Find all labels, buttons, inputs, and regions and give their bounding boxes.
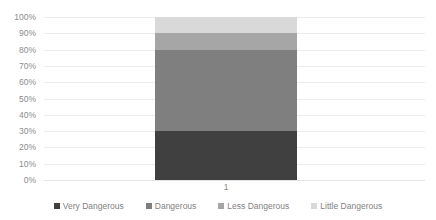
bar-segment-little-dangerous[interactable]	[155, 17, 297, 33]
legend-item[interactable]: Dangerous	[146, 202, 197, 211]
legend-label: Little Dangerous	[320, 202, 382, 211]
legend-item[interactable]: Less Dangerous	[218, 202, 289, 211]
y-axis-tick-label: 40%	[0, 111, 36, 120]
y-axis-tick-label: 10%	[0, 159, 36, 168]
y-axis-tick-label: 90%	[0, 29, 36, 38]
legend-label: Less Dangerous	[227, 202, 289, 211]
chart-legend: Very DangerousDangerousLess DangerousLit…	[0, 199, 436, 213]
legend-item[interactable]: Very Dangerous	[54, 202, 124, 211]
y-axis-tick-label: 60%	[0, 78, 36, 87]
legend-item[interactable]: Little Dangerous	[311, 202, 382, 211]
y-axis-tick-label: 100%	[0, 13, 36, 22]
y-axis-tick-label: 30%	[0, 127, 36, 136]
plot-area	[44, 17, 425, 180]
bar-segment-dangerous[interactable]	[155, 50, 297, 132]
legend-swatch-icon	[54, 203, 60, 209]
y-axis-tick-label: 80%	[0, 45, 36, 54]
x-axis: 1	[44, 181, 425, 197]
y-axis-tick-label: 0%	[0, 176, 36, 185]
bar-segment-less-dangerous[interactable]	[155, 33, 297, 49]
legend-label: Very Dangerous	[63, 202, 124, 211]
legend-swatch-icon	[311, 203, 317, 209]
y-axis-tick-label: 70%	[0, 62, 36, 71]
y-axis-tick-label: 50%	[0, 94, 36, 103]
bar-segment-very-dangerous[interactable]	[155, 131, 297, 180]
x-axis-tick-label: 1	[224, 183, 229, 192]
y-axis-tick-label: 20%	[0, 143, 36, 152]
legend-swatch-icon	[146, 203, 152, 209]
legend-label: Dangerous	[155, 202, 197, 211]
y-axis: 100%90%80%70%60%50%40%30%20%10%0%	[0, 17, 40, 180]
stacked-bar-category-1[interactable]	[155, 17, 297, 180]
legend-swatch-icon	[218, 203, 224, 209]
stacked-bar-chart: 100%90%80%70%60%50%40%30%20%10%0% 1 Very…	[0, 0, 436, 220]
